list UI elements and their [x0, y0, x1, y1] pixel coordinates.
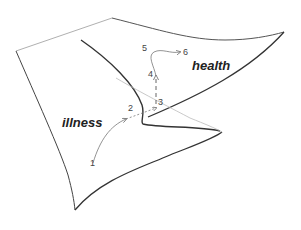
surface-edge-bottom: [75, 132, 222, 210]
trajectory-4-6: [151, 51, 180, 76]
surface-edge-right: [148, 32, 284, 117]
step-label-3: 3: [158, 97, 163, 107]
surface-edge-top-left: [16, 18, 112, 51]
step-label-1: 1: [90, 158, 95, 168]
step-label-6: 6: [183, 47, 188, 57]
surface-edge-left: [16, 51, 75, 210]
cusp-diagram: illness health 1 2 3 4 5 6: [0, 0, 301, 230]
region-label-illness: illness: [62, 115, 102, 130]
step-label-5: 5: [142, 43, 147, 53]
surface-drawing: [0, 0, 301, 230]
surface-edge-top-right: [112, 18, 284, 40]
step-label-2: 2: [128, 103, 133, 113]
step-label-4: 4: [148, 69, 153, 79]
region-label-health: health: [192, 58, 230, 73]
